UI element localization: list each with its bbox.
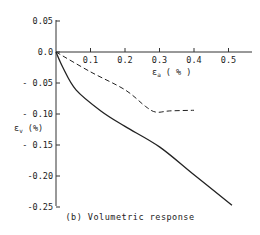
x-tick-label: 0.4 — [186, 55, 201, 65]
data-series — [56, 52, 232, 205]
y-tick-label: -0.25 — [27, 202, 53, 212]
y-axis-label: εv (%) — [14, 123, 43, 134]
y-ticks: 0.050.0- 0.05- 0.10- 0.15-0.20-0.25 — [22, 16, 60, 212]
x-tick-label: 0.2 — [117, 55, 132, 65]
y-tick-label: 0.0 — [38, 47, 53, 57]
y-tick-label: - 0.10 — [22, 109, 53, 119]
x-axis-label: εa ( % ) — [152, 67, 191, 78]
y-tick-label: - 0.15 — [22, 140, 53, 150]
solid-series-line — [56, 52, 232, 205]
x-tick-label: 0.5 — [221, 55, 236, 65]
axes — [56, 20, 252, 206]
chart-caption: (b) Volumetric response — [0, 212, 260, 222]
y-tick-label: 0.05 — [33, 16, 53, 26]
x-tick-label: 0.3 — [152, 55, 167, 65]
volumetric-response-chart: 0.050.0- 0.05- 0.10- 0.15-0.20-0.25 0.10… — [0, 0, 260, 235]
x-tick-label: 0.1 — [83, 55, 98, 65]
x-ticks: 0.10.20.30.40.5 — [83, 48, 236, 65]
y-tick-label: -0.20 — [27, 171, 53, 181]
y-tick-label: - 0.05 — [22, 78, 53, 88]
